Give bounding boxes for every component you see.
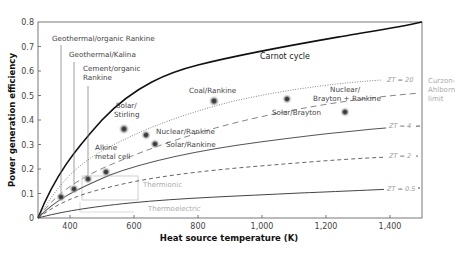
y-tick-label: 0.6 xyxy=(21,67,34,76)
label-geothermal-orc: Geothermal/organic Rankine xyxy=(52,34,155,43)
label-thermionic: Thermionic xyxy=(142,181,182,189)
point-solar-rankine xyxy=(150,139,160,149)
label-stirling-1: Solar/ xyxy=(116,101,137,110)
label-curzon-3: limit xyxy=(428,95,444,103)
label-alkine-1: Alkine xyxy=(95,143,118,152)
label-cement-2: Rankine xyxy=(83,73,113,82)
label-solar-brayton: Solar/Brayton xyxy=(272,108,321,117)
label-nuclear-brayton-1: Nuclear/ xyxy=(330,85,361,94)
x-tick-label: 800 xyxy=(190,222,205,231)
point-cement-orc xyxy=(83,174,93,184)
label-coal-rankine: Coal/Rankine xyxy=(189,86,237,95)
label-zt05: ZT = 0.5 xyxy=(386,185,415,193)
y-tick-label: 0.4 xyxy=(21,116,34,125)
label-carnot: Carnot cycle xyxy=(260,52,310,61)
point-geothermal-orc xyxy=(56,192,66,202)
efficiency-chart: 0 0.1 0.2 0.3 0.4 0.5 0.6 0.7 0.8 400 60… xyxy=(0,0,473,254)
point-coal-rankine xyxy=(209,96,220,107)
label-cement-1: Cement/organic xyxy=(83,64,140,73)
point-nuclear-brayton-rankine xyxy=(340,107,350,117)
label-solar-rankine: Solar/Rankine xyxy=(166,140,216,149)
x-axis xyxy=(70,215,390,218)
point-alkine-metal-cell xyxy=(101,167,111,177)
point-solar-brayton xyxy=(282,94,292,104)
x-tick-label: 1,000 xyxy=(251,222,274,231)
zt05-curve xyxy=(38,188,420,218)
y-tick-label: 0.5 xyxy=(21,92,34,101)
label-nuclear-rankine: Nuclear/Rankine xyxy=(156,127,216,136)
y-tick-label: 0.3 xyxy=(21,141,34,150)
point-geothermal-kalina xyxy=(69,184,79,194)
y-tick-label: 0.2 xyxy=(21,165,34,174)
label-zt2: ZT = 2 xyxy=(388,152,411,160)
x-tick-label: 1,400 xyxy=(379,222,402,231)
label-curzon-2: Ahlborn xyxy=(428,86,455,94)
label-zt20: ZT = 20 xyxy=(386,76,413,84)
label-alkine-2: metal cell xyxy=(95,152,130,161)
y-tick-label: 0.8 xyxy=(21,18,34,27)
label-geothermal-kalina: Geothermal/Kalina xyxy=(69,50,136,59)
y-tick-label: 0.1 xyxy=(21,190,34,199)
x-tick-label: 400 xyxy=(62,222,77,231)
y-tick-label: 0.7 xyxy=(21,43,34,52)
x-axis-title: Heat source temperature (K) xyxy=(160,233,299,243)
y-axis xyxy=(38,47,41,194)
label-stirling-2: Stirling xyxy=(114,110,139,119)
label-thermoelectric: Thermoelectric xyxy=(147,205,201,213)
x-tick-label: 600 xyxy=(126,222,141,231)
zt2-curve xyxy=(38,156,420,218)
point-solar-stirling xyxy=(119,124,130,135)
x-tick-label: 1,200 xyxy=(315,222,338,231)
label-curzon-1: Curzon- xyxy=(428,77,456,85)
label-nuclear-brayton-2: Brayton + Rankine xyxy=(313,94,381,103)
label-zt4: ZT = 4 xyxy=(388,122,411,130)
y-tick-label: 0 xyxy=(29,214,34,223)
point-nuclear-rankine xyxy=(141,130,151,140)
y-axis-title: Power generation efficiency xyxy=(7,53,17,187)
